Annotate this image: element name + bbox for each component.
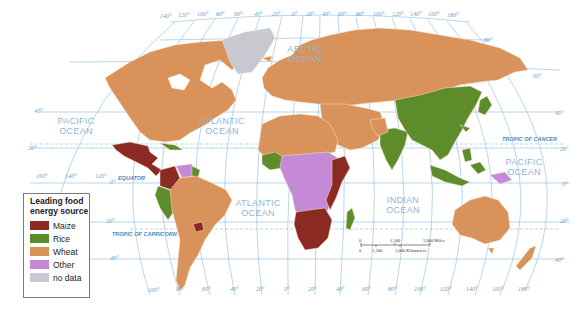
- svg-text:60°: 60°: [234, 11, 243, 17]
- bottom-longitude-labels: 100° 80° 60° 40° 20° 0° 20° 40° 60° 80° …: [148, 286, 530, 293]
- svg-text:40°: 40°: [254, 11, 263, 17]
- svg-text:60°: 60°: [362, 286, 371, 292]
- svg-text:3,000 Kilometers: 3,000 Kilometers: [395, 248, 426, 254]
- svg-text:180°: 180°: [447, 12, 459, 18]
- legend-item-no-data: no data: [30, 271, 89, 284]
- svg-text:80°: 80°: [356, 11, 365, 17]
- svg-text:40°: 40°: [555, 257, 564, 263]
- svg-text:20°: 20°: [106, 218, 115, 224]
- pacific-ocean-east-label: PACIFIC: [506, 157, 543, 167]
- svg-text:80°: 80°: [216, 11, 225, 17]
- tropic-of-cancer-label: TROPIC OF CANCER: [502, 136, 557, 142]
- svg-text:40°: 40°: [230, 286, 239, 292]
- svg-text:120°: 120°: [392, 11, 404, 17]
- svg-text:180°: 180°: [518, 286, 530, 292]
- svg-text:OCEAN: OCEAN: [507, 167, 541, 177]
- svg-text:80°: 80°: [176, 286, 185, 292]
- legend-item-wheat: Wheat: [30, 245, 89, 258]
- land-masses: [105, 28, 536, 290]
- pacific-ocean-west-label: PACIFIC: [58, 116, 95, 126]
- svg-text:0°: 0°: [284, 286, 290, 292]
- svg-text:140°: 140°: [65, 173, 77, 179]
- svg-text:1,500: 1,500: [390, 238, 401, 244]
- svg-text:40°: 40°: [336, 286, 345, 292]
- svg-text:40°: 40°: [555, 110, 564, 116]
- svg-text:OCEAN: OCEAN: [386, 205, 420, 215]
- svg-text:140°: 140°: [410, 11, 422, 17]
- svg-text:40°: 40°: [34, 108, 43, 114]
- svg-text:100°: 100°: [373, 11, 385, 17]
- svg-text:100°: 100°: [414, 286, 426, 292]
- indian-ocean-label: INDIAN: [387, 195, 419, 205]
- svg-text:60°: 60°: [202, 286, 211, 292]
- svg-text:120°: 120°: [95, 173, 107, 179]
- svg-text:20°: 20°: [256, 286, 265, 292]
- svg-text:1,500: 1,500: [372, 248, 383, 254]
- equator-label: EQUATOR: [118, 175, 145, 181]
- svg-text:80°: 80°: [484, 37, 493, 43]
- svg-text:20°: 20°: [560, 218, 569, 224]
- atlantic-ocean-north-label: ATLANTIC: [199, 116, 244, 126]
- legend: Leading food energy source Maize Rice Wh…: [23, 193, 90, 298]
- svg-text:140°: 140°: [160, 13, 172, 19]
- atlantic-ocean-south-label: ATLANTIC: [235, 198, 280, 208]
- mexico-central-america: [112, 142, 162, 176]
- svg-text:160°: 160°: [492, 286, 504, 292]
- legend-title: Leading food energy source: [30, 197, 89, 216]
- legend-item-maize: Maize: [30, 219, 89, 232]
- svg-text:100°: 100°: [197, 11, 209, 17]
- svg-text:OCEAN: OCEAN: [59, 126, 93, 136]
- svg-text:0°: 0°: [110, 179, 116, 185]
- svg-text:20°: 20°: [306, 11, 315, 17]
- svg-text:60°: 60°: [338, 11, 347, 17]
- svg-text:40°: 40°: [322, 11, 331, 17]
- arctic-ocean-label: ARCTIC: [287, 44, 322, 54]
- svg-text:120°: 120°: [178, 12, 190, 18]
- svg-text:0: 0: [359, 238, 362, 243]
- svg-text:120°: 120°: [440, 286, 452, 292]
- svg-text:0°: 0°: [562, 181, 568, 187]
- left-longitude-labels: 160° 140° 120°: [36, 173, 107, 179]
- svg-text:160°: 160°: [428, 11, 440, 17]
- south-america: [170, 176, 232, 290]
- legend-item-rice: Rice: [30, 232, 89, 245]
- svg-text:100°: 100°: [148, 287, 160, 293]
- no-data-swatch: [30, 273, 49, 282]
- svg-text:20°: 20°: [28, 145, 37, 151]
- other-swatch: [30, 260, 49, 269]
- legend-item-other: Other: [30, 258, 89, 271]
- maize-swatch: [30, 221, 49, 230]
- wheat-swatch: [30, 247, 49, 256]
- svg-text:OCEAN: OCEAN: [205, 126, 239, 136]
- svg-text:3,000 Miles: 3,000 Miles: [423, 238, 445, 244]
- svg-text:20°: 20°: [272, 11, 281, 17]
- svg-text:80°: 80°: [388, 286, 397, 292]
- svg-text:0: 0: [359, 248, 362, 253]
- svg-text:40°: 40°: [110, 255, 119, 261]
- svg-text:140°: 140°: [466, 286, 478, 292]
- svg-text:20°: 20°: [560, 146, 569, 152]
- tropic-of-capricorn-label: TROPIC OF CAPRICORN: [112, 231, 178, 237]
- svg-text:OCEAN: OCEAN: [241, 208, 275, 218]
- svg-text:OCEAN: OCEAN: [288, 54, 322, 64]
- svg-text:0°: 0°: [292, 11, 298, 17]
- southern-africa: [294, 208, 332, 250]
- svg-text:60°: 60°: [533, 73, 542, 79]
- svg-text:160°: 160°: [36, 173, 48, 179]
- svg-text:20°: 20°: [308, 286, 317, 292]
- india: [380, 128, 408, 170]
- rice-swatch: [30, 234, 49, 243]
